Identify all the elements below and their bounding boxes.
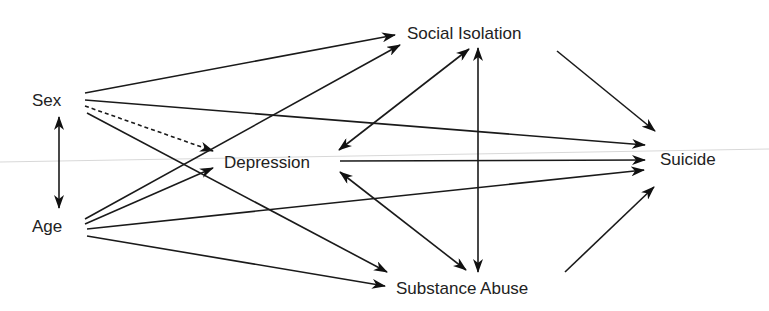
edge-age-substance-abuse xyxy=(87,236,385,286)
edge-depression-suicide xyxy=(340,160,645,161)
edge-depression-substance-abuse xyxy=(340,172,466,270)
edge-depression-social-isolation xyxy=(339,49,469,150)
path-diagram: Sex Age Depression Social Isolation Subs… xyxy=(0,0,769,311)
edge-age-social-isolation xyxy=(85,45,400,219)
node-suicide: Suicide xyxy=(660,150,716,170)
edge-sex-social-isolation xyxy=(85,35,395,93)
edge-age-suicide xyxy=(87,170,644,229)
edge-substance-abuse-suicide xyxy=(565,187,654,272)
scan-line-artifact xyxy=(0,149,769,162)
edge-sex-depression-dashed xyxy=(85,106,213,151)
edge-age-depression xyxy=(85,168,213,224)
edge-social-isolation-suicide xyxy=(557,51,655,131)
node-social-isolation: Social Isolation xyxy=(407,24,521,44)
node-age: Age xyxy=(32,217,62,237)
diagram-edges xyxy=(0,0,769,311)
node-depression: Depression xyxy=(224,153,310,173)
node-sex: Sex xyxy=(32,91,61,111)
node-substance-abuse: Substance Abuse xyxy=(396,279,528,299)
edge-sex-suicide xyxy=(85,100,645,145)
